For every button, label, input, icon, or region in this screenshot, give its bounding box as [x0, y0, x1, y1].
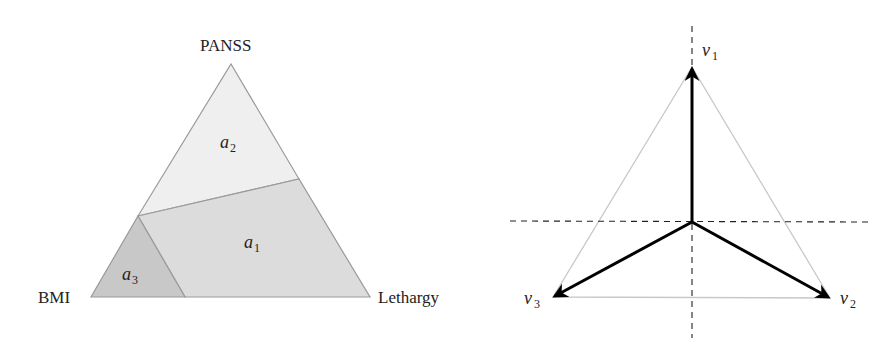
- svg-text:2: 2: [850, 297, 856, 311]
- svg-text:3: 3: [534, 297, 540, 311]
- svg-text:1: 1: [254, 241, 260, 255]
- svg-text:1: 1: [712, 49, 718, 63]
- vector-label-v3: v 3: [524, 288, 540, 311]
- vertex-label-bmi: BMI: [38, 288, 70, 307]
- svg-text:2: 2: [230, 141, 236, 155]
- vertex-label-panss: PANSS: [200, 36, 251, 55]
- svg-text:a: a: [122, 264, 131, 284]
- svg-text:v: v: [702, 40, 710, 60]
- svg-text:3: 3: [132, 273, 138, 287]
- ternary-triangle: [91, 64, 370, 297]
- svg-text:a: a: [244, 232, 253, 252]
- vector-label-v1: v 1: [702, 40, 718, 63]
- svg-text:v: v: [524, 288, 532, 308]
- svg-text:a: a: [220, 132, 229, 152]
- vertex-label-lethargy: Lethargy: [378, 288, 440, 307]
- vector-label-v2: v 2: [840, 288, 856, 311]
- diagram-canvas: PANSS BMI Lethargy a 2 a 1 a 3 v 1 v 2 v…: [0, 0, 894, 349]
- svg-text:v: v: [840, 288, 848, 308]
